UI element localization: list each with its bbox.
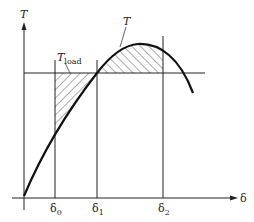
delta0-label: δ0: [50, 202, 62, 217]
t-load-label: Tload: [57, 51, 82, 66]
decelerating-area: [97, 44, 163, 73]
x-axis-label: δ: [240, 192, 247, 205]
delta2-label: δ2: [158, 202, 170, 217]
delta0-sub: 0: [57, 208, 62, 217]
y-axis-arrow-icon: [22, 22, 27, 30]
t-curve-label: T: [123, 15, 132, 28]
t-load-label-sub: load: [64, 57, 81, 66]
delta2-sub: 2: [165, 208, 170, 217]
delta1-label: δ1: [92, 202, 104, 217]
t-label-leader: [120, 27, 126, 47]
delta1-sub: 1: [99, 208, 104, 217]
torque-angle-diagram: T δ T Tload δ0 δ1 δ2: [0, 0, 254, 222]
y-axis-label: T: [20, 8, 29, 21]
x-axis-arrow-icon: [230, 196, 238, 201]
